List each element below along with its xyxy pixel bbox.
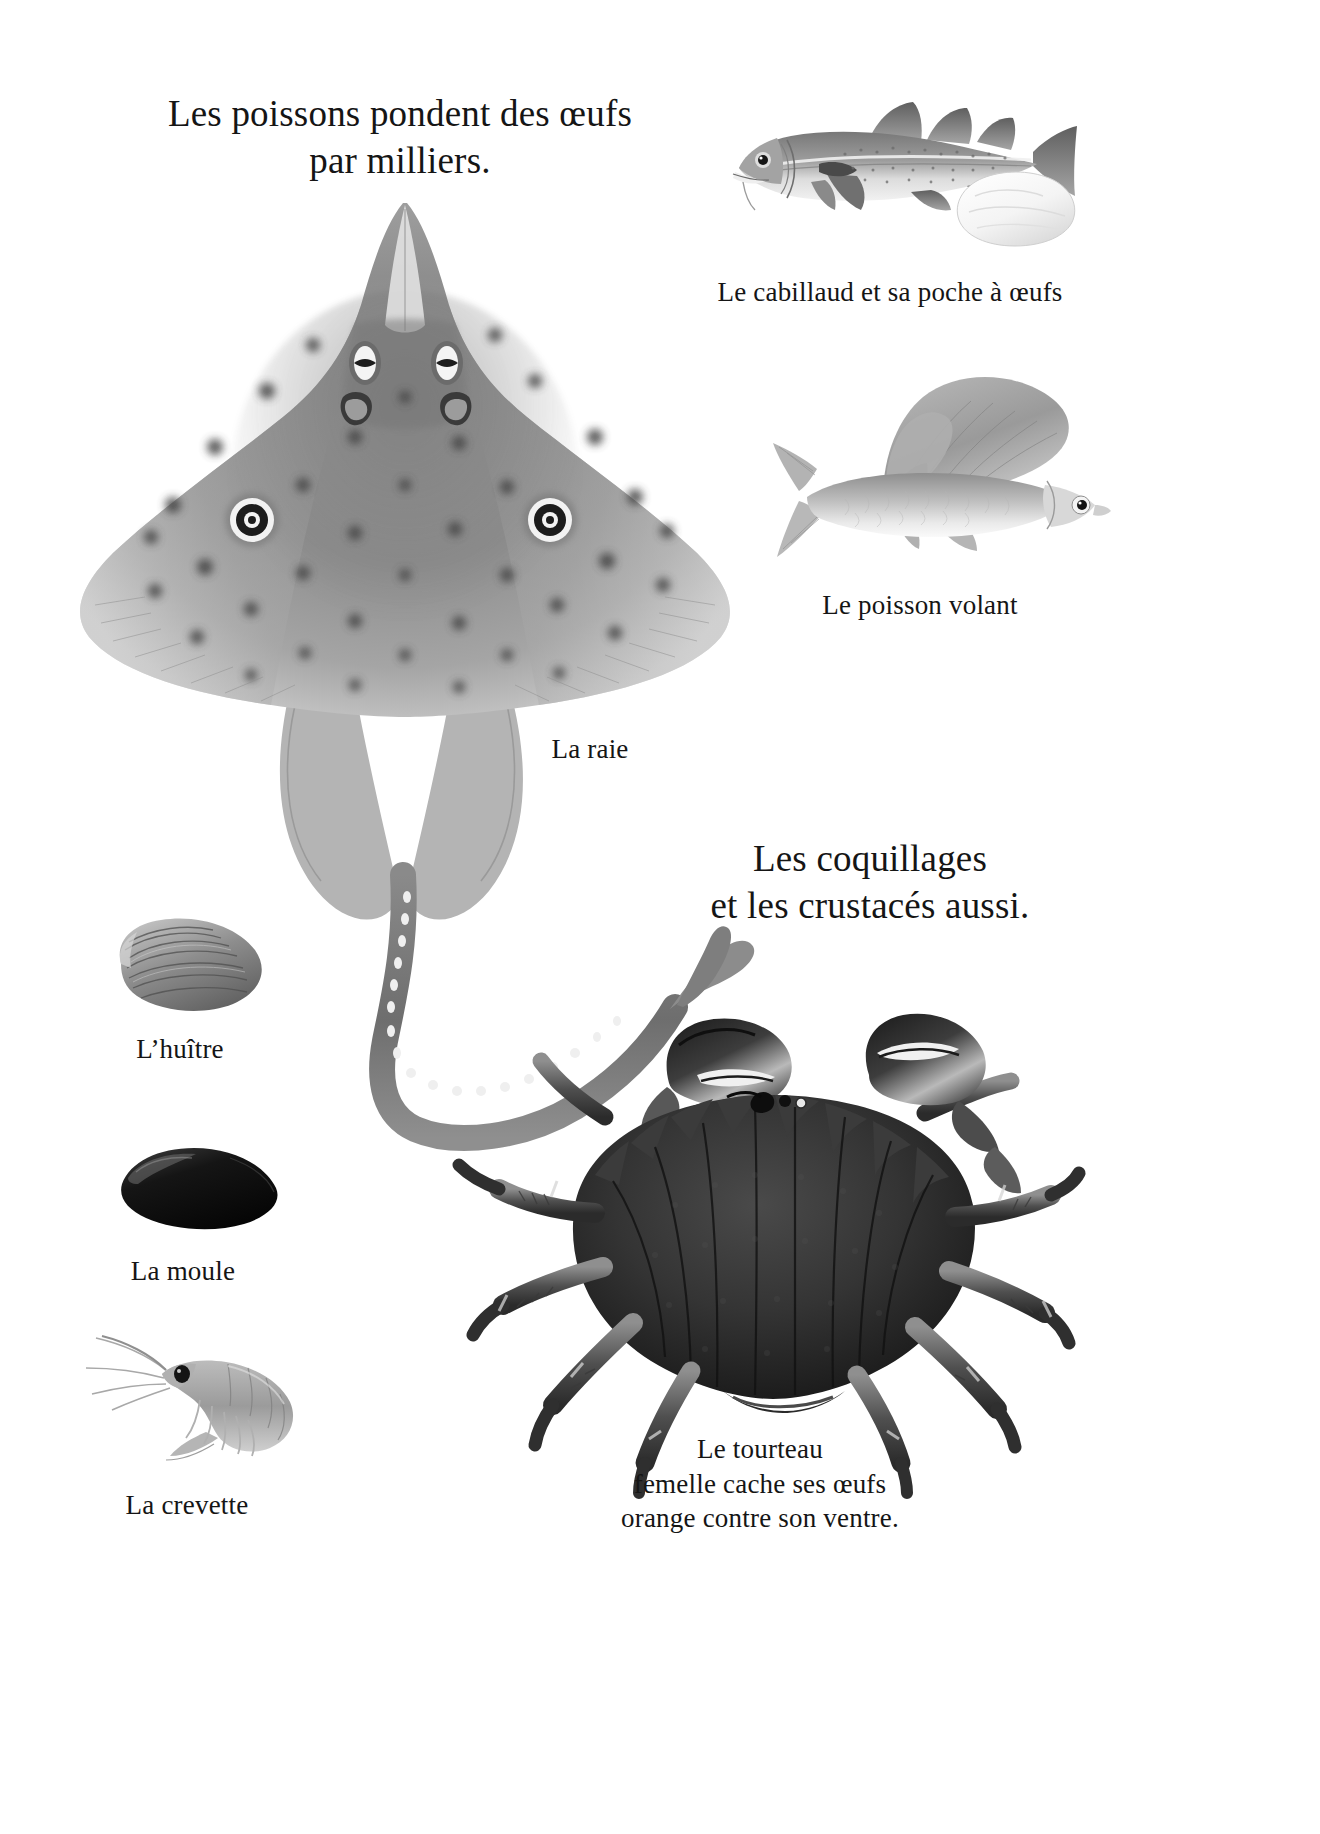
cod-caption: Le cabillaud et sa poche à œufs: [690, 275, 1090, 310]
oyster-illustration: [105, 912, 275, 1022]
shrimp-illustration: [78, 1326, 318, 1466]
flying-fish-caption: Le poisson volant: [790, 588, 1050, 623]
illustrated-page: Les poissons pondent des œufs par millie…: [0, 0, 1320, 1834]
ray-caption: La raie: [515, 732, 665, 767]
ray-ocellus-left: [225, 493, 279, 547]
shrimp-caption: La crevette: [92, 1488, 282, 1523]
ray-eye-right: [431, 341, 463, 385]
page-title-shellfish: Les coquillages et les crustacés aussi.: [705, 835, 1035, 930]
ray-eye-left: [349, 341, 381, 385]
flying-fish-illustration: [765, 365, 1115, 575]
ray-illustration: [55, 185, 755, 945]
oyster-caption: L’huître: [100, 1032, 260, 1067]
ray-ocellus-right: [523, 493, 577, 547]
mussel-caption: La moule: [98, 1254, 268, 1289]
mussel-illustration: [110, 1138, 290, 1243]
crab-illustration: [455, 1005, 1080, 1475]
page-title-fish: Les poissons pondent des œufs par millie…: [165, 90, 635, 185]
egg-sac-illustration: [945, 160, 1085, 255]
crab-caption: Le tourteau femelle cache ses œufs orang…: [595, 1432, 925, 1536]
